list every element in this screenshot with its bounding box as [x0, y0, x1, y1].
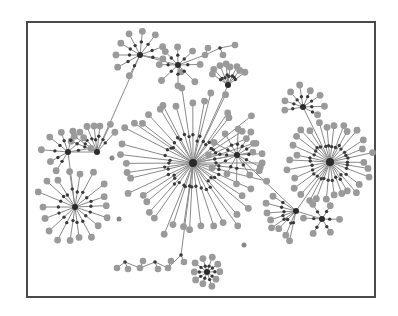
intermediate-node — [334, 146, 337, 149]
intermediate-node — [344, 173, 347, 176]
leaf-node — [208, 283, 215, 290]
leaf-node — [245, 205, 252, 212]
intermediate-node — [176, 136, 179, 139]
intermediate-node — [84, 214, 87, 217]
leaf-node — [158, 77, 165, 84]
leaf-node — [76, 234, 83, 241]
leaf-node — [213, 276, 220, 283]
intermediate-node — [57, 205, 60, 208]
hub-node — [300, 104, 306, 110]
leaf-node — [253, 140, 260, 147]
leaf-node — [354, 127, 361, 134]
leaf-node — [201, 98, 208, 105]
intermediate-node — [204, 265, 207, 268]
intermediate-node — [182, 184, 185, 187]
leaf-node — [247, 129, 254, 136]
intermediate-node — [343, 151, 346, 154]
intermediate-node — [150, 49, 153, 52]
leaf-node — [189, 100, 196, 107]
intermediate-node — [310, 99, 313, 102]
hub-node — [234, 152, 240, 158]
hub-node — [326, 158, 334, 166]
intermediate-node — [213, 176, 216, 179]
spoke-edge — [49, 207, 75, 231]
leaf-node — [180, 223, 187, 230]
intermediate-node — [330, 145, 333, 148]
intermediate-node — [226, 148, 229, 151]
intermediate-node — [211, 266, 214, 269]
intermediate-node — [199, 266, 202, 269]
intermediate-node — [163, 165, 166, 168]
intermediate-node — [75, 221, 78, 224]
intermediate-node — [217, 164, 220, 167]
leaf-node — [300, 215, 307, 222]
spoke-edge — [290, 211, 296, 241]
intermediate-node — [213, 270, 216, 273]
leaf-node — [38, 146, 45, 153]
intermediate-node — [207, 264, 210, 267]
spoke-edge — [149, 115, 193, 163]
leaf-node — [217, 62, 224, 69]
leaf-node — [290, 142, 297, 149]
hub-node — [225, 82, 231, 88]
leaf-node — [66, 168, 73, 175]
leaf-node — [146, 209, 153, 216]
leaf-node — [264, 210, 271, 217]
leaf-node — [117, 151, 124, 158]
intermediate-node — [346, 156, 349, 159]
intermediate-node — [77, 149, 80, 152]
intermediate-node — [71, 187, 74, 190]
intermediate-node — [176, 53, 179, 56]
intermediate-node — [187, 135, 190, 138]
leaf-node — [123, 160, 130, 167]
spoke-edge — [75, 184, 104, 207]
leaf-node — [77, 171, 84, 178]
leaf-node — [199, 280, 206, 287]
leaf-node — [143, 198, 150, 205]
leaf-node — [67, 237, 74, 244]
network-graph — [0, 0, 398, 316]
intermediate-node — [65, 221, 68, 224]
leaf-node — [220, 219, 227, 226]
intermediate-node — [167, 173, 170, 176]
intermediate-node — [338, 144, 341, 147]
leaf-node — [327, 202, 334, 209]
spoke-edge — [193, 116, 251, 163]
leaf-node — [356, 181, 363, 188]
intermediate-node — [315, 226, 318, 229]
intermediate-node — [345, 167, 348, 170]
intermediate-node — [230, 143, 233, 146]
intermediate-node — [319, 145, 322, 148]
intermediate-node — [214, 151, 217, 154]
leaf-node — [170, 221, 177, 228]
intermediate-node — [289, 221, 292, 224]
leaf-node — [125, 266, 132, 273]
intermediate-node — [327, 178, 330, 181]
leaf-node — [131, 120, 138, 127]
intermediate-node — [241, 145, 244, 148]
intermediate-node — [176, 72, 179, 75]
intermediate-node — [212, 148, 215, 151]
intermediate-node — [81, 191, 84, 194]
intermediate-node — [242, 163, 245, 166]
intermediate-node — [281, 201, 284, 204]
leaf-node — [209, 164, 216, 171]
chain-node — [114, 265, 121, 272]
intermediate-node — [195, 139, 198, 142]
chain-node — [232, 42, 239, 49]
stray-node — [117, 217, 122, 222]
leaf-node — [101, 193, 108, 200]
leaf-node — [222, 91, 229, 98]
leaf-node — [224, 170, 231, 177]
intermediate-node — [334, 176, 337, 179]
intermediate-node — [312, 153, 315, 156]
leaf-node — [88, 145, 95, 152]
leaf-node — [211, 139, 218, 146]
intermediate-node — [83, 145, 86, 148]
intermediate-node — [214, 161, 217, 164]
intermediate-node — [183, 133, 186, 136]
intermediate-node — [314, 149, 317, 152]
leaf-node — [173, 103, 180, 110]
intermediate-node — [286, 218, 289, 221]
intermediate-node — [207, 179, 210, 182]
